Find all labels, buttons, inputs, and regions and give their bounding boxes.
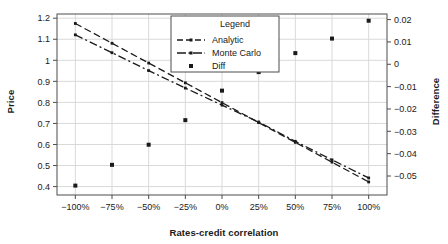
y-tick-label-right: 0.01 <box>394 37 412 47</box>
legend-label: Diff <box>212 61 226 71</box>
series-point-marker <box>294 140 297 143</box>
x-tick-label: 0% <box>215 202 228 212</box>
x-tick-label: −100% <box>61 202 89 212</box>
y-tick-label-right: −0.02 <box>394 104 417 114</box>
data-point-marker <box>183 118 187 122</box>
y-tick-label-left: 0.7 <box>37 119 50 129</box>
data-point-marker <box>73 184 77 188</box>
y-tick-label-right: 0.02 <box>394 15 412 25</box>
legend-marker-point <box>190 39 193 42</box>
data-point-marker <box>293 51 297 55</box>
series-point-marker <box>221 104 224 107</box>
y-tick-label-right: −0.04 <box>394 149 417 159</box>
chart-figure: −100%−75%−50%−25%0%25%50%75%100% 0.40.50… <box>0 0 448 244</box>
series-point-marker <box>111 42 114 45</box>
series-point-marker <box>74 33 77 36</box>
series-point-marker <box>367 177 370 180</box>
data-point-marker <box>110 163 114 167</box>
data-point-marker <box>367 19 371 23</box>
legend-marker-diff <box>189 64 193 68</box>
x-tick-label: 50% <box>286 202 304 212</box>
series-point-marker <box>184 81 187 84</box>
x-tick-label: −75% <box>100 202 123 212</box>
y-tick-label-right: −0.01 <box>394 82 417 92</box>
y-tick-label-left: 1.1 <box>37 34 50 44</box>
data-point-marker <box>330 37 334 41</box>
x-tick-label: −25% <box>174 202 197 212</box>
series-point-marker <box>331 158 334 161</box>
y-tick-label-right: 0 <box>394 59 399 69</box>
y-tick-label-left: 0.6 <box>37 140 50 150</box>
x-tick-label: −50% <box>137 202 160 212</box>
x-tick-label: 100% <box>357 202 380 212</box>
y-tick-label-left: 1 <box>45 56 50 66</box>
series-point-marker <box>257 121 260 124</box>
series-point-marker <box>147 62 150 65</box>
series-point-marker <box>367 181 370 184</box>
y-tick-label-right: −0.05 <box>394 171 417 181</box>
y-tick-label-left: 1.2 <box>37 13 50 23</box>
y-tick-label-left: 0.8 <box>37 98 50 108</box>
series-point-marker <box>184 87 187 90</box>
x-axis-title: Rates-credit correlation <box>0 227 448 238</box>
y-axis-left-ticks: 0.40.50.60.70.80.911.11.2 <box>37 13 57 191</box>
data-point-marker <box>220 89 224 93</box>
x-tick-label: 25% <box>250 202 268 212</box>
y-tick-label-right: −0.03 <box>394 127 417 137</box>
series-point-marker <box>111 51 114 54</box>
legend-title: Legend <box>220 19 250 29</box>
y-axis-left-title: Price <box>5 79 16 125</box>
y-tick-label-left: 0.5 <box>37 161 50 171</box>
y-axis-right-title: Difference <box>430 71 441 133</box>
legend-label: Analytic <box>212 35 244 45</box>
x-tick-label: 75% <box>323 202 341 212</box>
y-tick-label-left: 0.9 <box>37 77 50 87</box>
series-point-marker <box>74 22 77 25</box>
legend-marker-point <box>190 52 193 55</box>
x-axis-ticks: −100%−75%−50%−25%0%25%50%75%100% <box>61 195 380 212</box>
legend-label: Monte Carlo <box>212 48 261 58</box>
y-axis-right-ticks: 0.020.010−0.01−0.02−0.03−0.04−0.05 <box>387 15 417 181</box>
series-point-marker <box>221 101 224 104</box>
series-point-marker <box>147 69 150 72</box>
y-tick-label-left: 0.4 <box>37 182 50 192</box>
data-point-marker <box>147 143 151 147</box>
chart-canvas: −100%−75%−50%−25%0%25%50%75%100% 0.40.50… <box>0 0 448 244</box>
chart-legend: LegendAnalyticMonte CarloDiff <box>171 16 279 72</box>
